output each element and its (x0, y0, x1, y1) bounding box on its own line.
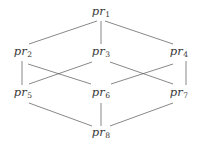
node-pr8-base: pr (92, 125, 105, 139)
edge-pr3-pr7 (110, 62, 173, 84)
node-pr6-subscript: 6 (105, 91, 110, 100)
node-pr3-subscript: 3 (105, 50, 110, 59)
hasse-diagram: pr1 pr2 pr3 pr4 pr5 pr6 pr7 pr8 (0, 0, 202, 148)
node-pr7-base: pr (170, 85, 183, 99)
node-pr7[interactable]: pr7 (170, 87, 188, 99)
node-pr8-subscript: 8 (105, 131, 110, 140)
node-pr6-base: pr (92, 85, 105, 99)
node-pr3-base: pr (92, 44, 105, 58)
node-pr5-base: pr (14, 85, 27, 99)
node-pr4-subscript: 4 (183, 50, 188, 59)
node-pr8[interactable]: pr8 (92, 127, 110, 139)
edge-pr5-pr8 (29, 103, 92, 126)
node-pr2-base: pr (14, 44, 27, 58)
node-pr1-base: pr (92, 4, 105, 18)
node-pr2[interactable]: pr2 (14, 46, 32, 58)
node-pr4-base: pr (170, 44, 183, 58)
node-pr1-subscript: 1 (105, 10, 110, 19)
edge-pr3-pr5 (29, 62, 92, 84)
node-pr7-subscript: 7 (183, 91, 188, 100)
node-pr3[interactable]: pr3 (92, 46, 110, 58)
edge-pr1-pr2 (29, 21, 97, 44)
node-pr5-subscript: 5 (27, 91, 32, 100)
edge-pr7-pr8 (110, 103, 173, 126)
edge-pr1-pr4 (105, 21, 173, 44)
node-pr5[interactable]: pr5 (14, 87, 32, 99)
node-pr6[interactable]: pr6 (92, 87, 110, 99)
node-pr4[interactable]: pr4 (170, 46, 188, 58)
node-pr2-subscript: 2 (27, 50, 32, 59)
node-pr1[interactable]: pr1 (92, 6, 110, 18)
